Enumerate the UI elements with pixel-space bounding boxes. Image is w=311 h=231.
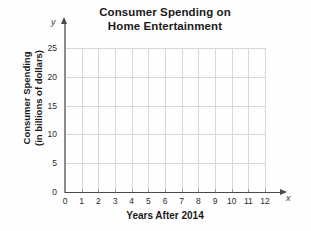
chart-figure: Consumer Spending on Home Entertainment … [0,0,311,231]
gridline-vertical [98,48,99,192]
chart-title-line-2: Home Entertainment [62,20,268,34]
plot-area [65,48,265,192]
x-tick-mark [198,189,199,192]
gridline-vertical [198,48,199,192]
x-tick-label: 4 [123,196,141,206]
x-tick-mark [265,189,266,192]
x-axis-letter: x [286,193,291,203]
x-tick-mark [132,189,133,192]
x-tick-mark [232,189,233,192]
x-tick-label: 9 [206,196,224,206]
y-axis-line [64,24,66,193]
x-tick-mark [165,189,166,192]
y-axis-title-line-1: Consumer Spending [21,18,33,178]
x-tick-label: 5 [139,196,157,206]
y-axis-arrow-icon [61,17,67,24]
x-tick-mark [98,189,99,192]
x-tick-mark [182,189,183,192]
x-tick-mark [115,189,116,192]
x-tick-label: 3 [106,196,124,206]
chart-title: Consumer Spending on Home Entertainment [62,6,268,33]
x-axis-title: Years After 2014 [65,210,265,221]
gridline-vertical [215,48,216,192]
y-axis-letter: y [51,17,56,27]
x-tick-label: 8 [189,196,207,206]
x-tick-mark [248,189,249,192]
gridline-vertical [132,48,133,192]
gridline-vertical [248,48,249,192]
x-tick-label: 12 [256,196,274,206]
x-tick-label: 1 [73,196,91,206]
x-tick-mark [82,189,83,192]
x-tick-mark [215,189,216,192]
gridline-vertical [182,48,183,192]
x-tick-label: 7 [173,196,191,206]
gridline-vertical [148,48,149,192]
gridline-vertical [265,48,266,192]
x-tick-label: 2 [89,196,107,206]
gridline-vertical [165,48,166,192]
gridline-vertical [82,48,83,192]
x-tick-label: 6 [156,196,174,206]
x-tick-label: 11 [239,196,257,206]
x-tick-label: 0 [56,196,74,206]
gridline-vertical [115,48,116,192]
x-tick-label: 10 [223,196,241,206]
chart-title-line-1: Consumer Spending on [62,6,268,20]
y-axis-title: Consumer Spending (in billions of dollar… [21,18,45,178]
gridline-vertical [232,48,233,192]
y-axis-title-line-2: (in billions of dollars) [33,18,45,178]
y-tick-label: 0 [35,187,57,197]
x-tick-mark [148,189,149,192]
